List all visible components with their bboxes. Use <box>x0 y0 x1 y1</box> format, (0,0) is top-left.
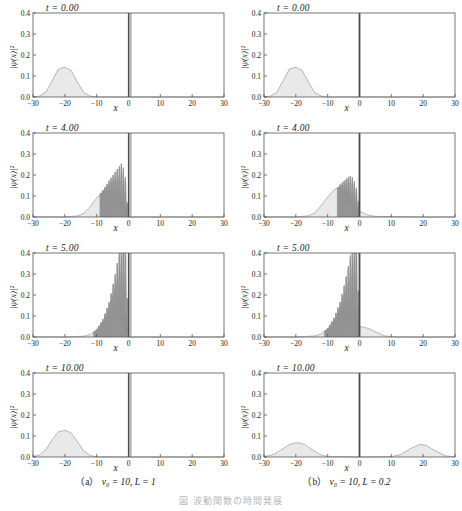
svg-text:0.4: 0.4 <box>252 369 262 378</box>
subcaption-b-text: v₀ = 10, L = 0.2 <box>330 477 391 487</box>
x-axis-label: x <box>231 223 462 233</box>
svg-text:0.3: 0.3 <box>21 390 31 399</box>
plot-area: −30−20−1001020300.00.10.20.30.4 <box>231 0 462 120</box>
panel-a-t10: t = 10.00 |ψ(x)|² −30−20−1001020300.00.1… <box>0 360 231 480</box>
panel-b-t5: t = 5.00 |ψ(x)|² −30−20−1001020300.00.10… <box>231 240 462 360</box>
svg-text:0.2: 0.2 <box>21 411 31 420</box>
svg-text:0.2: 0.2 <box>21 171 31 180</box>
svg-text:0.1: 0.1 <box>252 432 262 441</box>
svg-text:0.1: 0.1 <box>252 72 262 81</box>
svg-text:0.1: 0.1 <box>252 192 262 201</box>
svg-text:0.0: 0.0 <box>252 213 262 222</box>
svg-text:0.4: 0.4 <box>21 9 31 18</box>
svg-text:0.1: 0.1 <box>21 72 31 81</box>
column-b: t = 0.00 |ψ(x)|² −30−20−1001020300.00.10… <box>231 0 462 480</box>
svg-text:0.1: 0.1 <box>252 312 262 321</box>
svg-text:0.2: 0.2 <box>252 291 262 300</box>
x-axis-label: x <box>231 103 462 113</box>
svg-text:0.2: 0.2 <box>21 51 31 60</box>
svg-text:0.4: 0.4 <box>252 249 262 258</box>
column-a: t = 0.00 |ψ(x)|² −30−20−1001020300.00.10… <box>0 0 231 480</box>
panel-b-t0: t = 0.00 |ψ(x)|² −30−20−1001020300.00.10… <box>231 0 462 120</box>
plot-area: −30−20−1001020300.00.10.20.30.4 <box>231 120 462 240</box>
plot-svg: −30−20−1001020300.00.10.20.30.4 <box>0 360 231 480</box>
svg-text:0.3: 0.3 <box>252 390 262 399</box>
plot-area: −30−20−1001020300.00.10.20.30.4 <box>0 0 231 120</box>
plot-svg: −30−20−1001020300.00.10.20.30.4 <box>0 0 231 120</box>
x-axis-label: x <box>231 463 462 473</box>
svg-text:0.3: 0.3 <box>252 150 262 159</box>
plot-svg: −30−20−1001020300.00.10.20.30.4 <box>231 240 462 360</box>
svg-text:0.4: 0.4 <box>252 129 262 138</box>
subcaption-a: （a） v₀ = 10, L = 1 <box>0 474 231 488</box>
plot-area: −30−20−1001020300.00.10.20.30.4 <box>0 240 231 360</box>
x-axis-label: x <box>0 343 231 353</box>
subcaption-b-label: （b） <box>302 477 327 487</box>
x-axis-label: x <box>0 223 231 233</box>
svg-text:0.1: 0.1 <box>21 192 31 201</box>
plot-area: −30−20−1001020300.00.10.20.30.4 <box>231 360 462 480</box>
svg-text:0.4: 0.4 <box>21 369 31 378</box>
svg-text:0.4: 0.4 <box>21 249 31 258</box>
svg-text:0.3: 0.3 <box>21 150 31 159</box>
subcaption-a-text: v₀ = 10, L = 1 <box>102 477 156 487</box>
svg-text:0.0: 0.0 <box>21 453 31 462</box>
figure-wave-packet-evolution: t = 0.00 |ψ(x)|² −30−20−1001020300.00.10… <box>0 0 462 511</box>
svg-text:0.0: 0.0 <box>252 453 262 462</box>
plot-svg: −30−20−1001020300.00.10.20.30.4 <box>0 240 231 360</box>
panel-b-t10: t = 10.00 |ψ(x)|² −30−20−1001020300.00.1… <box>231 360 462 480</box>
svg-text:0.1: 0.1 <box>21 312 31 321</box>
svg-text:0.3: 0.3 <box>21 30 31 39</box>
svg-text:0.2: 0.2 <box>252 411 262 420</box>
svg-text:0.3: 0.3 <box>21 270 31 279</box>
svg-text:0.4: 0.4 <box>21 129 31 138</box>
plot-area: −30−20−1001020300.00.10.20.30.4 <box>0 360 231 480</box>
svg-text:0.3: 0.3 <box>252 270 262 279</box>
svg-text:0.4: 0.4 <box>252 9 262 18</box>
panel-columns: t = 0.00 |ψ(x)|² −30−20−1001020300.00.10… <box>0 0 462 480</box>
svg-text:0.2: 0.2 <box>252 51 262 60</box>
panel-a-t5: t = 5.00 |ψ(x)|² −30−20−1001020300.00.10… <box>0 240 231 360</box>
plot-area: −30−20−1001020300.00.10.20.30.4 <box>0 120 231 240</box>
x-axis-label: x <box>0 463 231 473</box>
x-axis-label: x <box>0 103 231 113</box>
x-axis-label: x <box>231 343 462 353</box>
plot-svg: −30−20−1001020300.00.10.20.30.4 <box>231 360 462 480</box>
plot-svg: −30−20−1001020300.00.10.20.30.4 <box>0 120 231 240</box>
plot-svg: −30−20−1001020300.00.10.20.30.4 <box>231 120 462 240</box>
svg-text:0.0: 0.0 <box>21 333 31 342</box>
subcaption-a-label: （a） <box>75 477 99 487</box>
svg-text:0.0: 0.0 <box>21 213 31 222</box>
figure-caption: 図 波動関数の時間発展 <box>0 494 462 506</box>
svg-text:0.1: 0.1 <box>21 432 31 441</box>
panel-b-t4: t = 4.00 |ψ(x)|² −30−20−1001020300.00.10… <box>231 120 462 240</box>
panel-a-t0: t = 0.00 |ψ(x)|² −30−20−1001020300.00.10… <box>0 0 231 120</box>
plot-svg: −30−20−1001020300.00.10.20.30.4 <box>231 0 462 120</box>
svg-text:0.3: 0.3 <box>252 30 262 39</box>
subcaption-row: （a） v₀ = 10, L = 1 （b） v₀ = 10, L = 0.2 <box>0 474 462 488</box>
plot-area: −30−20−1001020300.00.10.20.30.4 <box>231 240 462 360</box>
panel-a-t4: t = 4.00 |ψ(x)|² −30−20−1001020300.00.10… <box>0 120 231 240</box>
svg-text:0.2: 0.2 <box>252 171 262 180</box>
subcaption-b: （b） v₀ = 10, L = 0.2 <box>231 474 462 488</box>
svg-text:0.0: 0.0 <box>21 93 31 102</box>
svg-text:0.2: 0.2 <box>21 291 31 300</box>
svg-text:0.0: 0.0 <box>252 93 262 102</box>
svg-text:0.0: 0.0 <box>252 333 262 342</box>
